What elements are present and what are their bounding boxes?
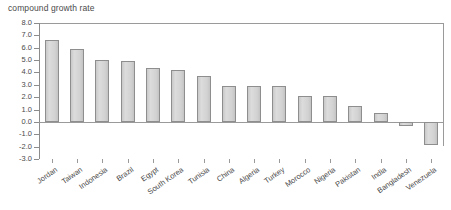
bar <box>348 106 362 122</box>
x-axis-tick <box>305 159 306 163</box>
x-axis-tick <box>102 159 103 163</box>
bar <box>45 40 59 122</box>
bar <box>70 49 84 122</box>
bar <box>146 68 160 122</box>
bar <box>323 96 337 122</box>
x-axis-tick <box>128 159 129 163</box>
x-axis-tick <box>330 159 331 163</box>
x-axis-tick <box>381 159 382 163</box>
bar <box>298 96 312 122</box>
bar <box>197 76 211 122</box>
x-axis-tick <box>52 159 53 163</box>
x-axis-tick <box>153 159 154 163</box>
bar <box>247 86 261 122</box>
bar <box>95 60 109 122</box>
bar <box>399 122 413 126</box>
bar <box>222 86 236 122</box>
x-axis-tick <box>204 159 205 163</box>
bar <box>374 113 388 122</box>
x-axis-tick <box>77 159 78 163</box>
bar <box>424 122 438 145</box>
x-axis-tick <box>229 159 230 163</box>
x-axis-tick <box>279 159 280 163</box>
x-axis-tick <box>406 159 407 163</box>
bar <box>171 70 185 122</box>
x-axis-tick <box>355 159 356 163</box>
x-axis-tick <box>178 159 179 163</box>
compound-growth-rate-chart: compound growth rate 8.07.06.05.04.03.02… <box>0 0 451 210</box>
bar <box>121 61 135 122</box>
bar <box>272 86 286 122</box>
x-axis-tick <box>254 159 255 163</box>
x-axis-tick <box>431 159 432 163</box>
